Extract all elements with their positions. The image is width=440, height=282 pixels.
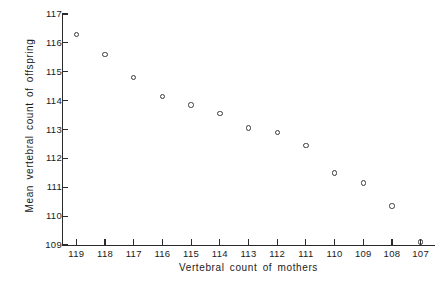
y-tick-mark <box>62 187 68 188</box>
x-tick-label: 112 <box>262 249 292 259</box>
x-tick-mark <box>191 239 192 245</box>
data-point <box>188 102 193 107</box>
x-tick-mark <box>277 239 278 245</box>
x-tick-label: 109 <box>348 249 378 259</box>
data-point <box>131 75 136 80</box>
y-tick-label: 112 <box>36 153 62 163</box>
y-tick-label: 111 <box>36 182 62 192</box>
x-tick-mark <box>391 239 392 245</box>
y-tick-label: 116 <box>36 38 62 48</box>
x-tick-label: 113 <box>234 249 264 259</box>
data-point <box>389 203 394 208</box>
data-point <box>160 94 165 99</box>
y-tick-mark <box>62 129 68 130</box>
x-tick-label: 107 <box>406 249 436 259</box>
x-tick-mark <box>133 239 134 245</box>
x-tick-mark <box>248 239 249 245</box>
y-tick-mark <box>62 100 68 101</box>
x-tick-mark <box>363 239 364 245</box>
y-tick-label: 113 <box>36 125 62 135</box>
y-tick-label: 115 <box>36 67 62 77</box>
x-tick-mark <box>76 239 77 245</box>
x-tick-mark <box>334 239 335 245</box>
x-tick-mark <box>305 239 306 245</box>
y-tick-label-wrap: 109 <box>0 240 62 250</box>
y-axis-title: Mean vertebral count of offspring <box>24 26 35 226</box>
y-tick-mark <box>62 42 68 43</box>
data-point <box>303 143 308 148</box>
y-tick-label: 114 <box>36 96 62 106</box>
y-tick-label-wrap: 117 <box>0 9 62 19</box>
scatter-plot-figure: 117116115114113112111110109 119118117116… <box>0 0 440 282</box>
y-tick-mark <box>62 71 68 72</box>
data-point <box>74 32 79 37</box>
data-point <box>275 130 280 135</box>
data-point <box>332 170 337 175</box>
x-tick-label: 119 <box>61 249 91 259</box>
x-tick-mark <box>104 239 105 245</box>
data-point <box>418 239 423 244</box>
x-tick-label: 116 <box>147 249 177 259</box>
x-axis-title: Vertebral count of mothers <box>62 262 435 273</box>
y-tick-mark <box>62 244 68 245</box>
x-tick-label: 114 <box>205 249 235 259</box>
y-tick-mark <box>62 158 68 159</box>
data-point <box>102 52 107 57</box>
x-tick-label: 108 <box>377 249 407 259</box>
x-tick-label: 111 <box>291 249 321 259</box>
y-tick-label: 110 <box>36 211 62 221</box>
x-axis-line <box>62 245 435 246</box>
x-tick-label: 110 <box>320 249 350 259</box>
x-tick-mark <box>162 239 163 245</box>
x-tick-mark <box>219 239 220 245</box>
y-tick-label: 109 <box>36 240 62 250</box>
x-tick-label: 115 <box>176 249 206 259</box>
x-tick-label: 117 <box>119 249 149 259</box>
data-point <box>217 111 222 116</box>
data-point <box>246 125 251 130</box>
y-tick-label: 117 <box>36 9 62 19</box>
y-tick-mark <box>62 216 68 217</box>
x-tick-label: 118 <box>90 249 120 259</box>
data-point <box>361 180 366 185</box>
y-tick-mark <box>62 13 68 14</box>
